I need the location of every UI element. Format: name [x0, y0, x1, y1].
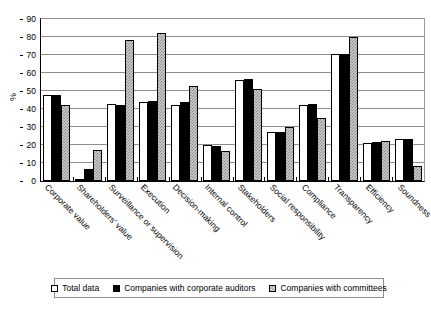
- bar-9-series-3[interactable]: [317, 118, 326, 181]
- y-tick-mark: [20, 19, 23, 20]
- legend-swatch-icon: [51, 285, 58, 292]
- bar-group: [201, 19, 233, 181]
- bar-10-series-1[interactable]: [331, 54, 340, 181]
- bar-4-series-3[interactable]: [157, 33, 166, 181]
- y-tick-mark: [20, 127, 23, 128]
- bar-group: [105, 19, 137, 181]
- bar-chart: % 0102030405060708090 Corporate valueSha…: [0, 0, 431, 314]
- y-tick-mark: [20, 163, 23, 164]
- bar-6-series-3[interactable]: [221, 151, 230, 181]
- y-tick-mark: [20, 37, 23, 38]
- bar-8-series-2[interactable]: [276, 132, 285, 181]
- bar-12-series-3[interactable]: [413, 166, 422, 181]
- bar-8-series-1[interactable]: [267, 132, 276, 181]
- bar-1-series-1[interactable]: [43, 95, 52, 181]
- x-axis-label: Shareholders' value: [75, 182, 135, 242]
- chart-legend: Total dataCompanies with corporate audit…: [54, 278, 384, 298]
- bar-group: [73, 19, 105, 181]
- bar-4-series-2[interactable]: [148, 101, 157, 181]
- bar-5-series-3[interactable]: [189, 86, 198, 181]
- x-axis-labels: Corporate valueShareholders' valueSurvei…: [40, 182, 425, 262]
- y-tick-mark: [20, 91, 23, 92]
- bar-2-series-1[interactable]: [75, 179, 84, 181]
- bar-3-series-2[interactable]: [116, 105, 125, 181]
- bar-group: [169, 19, 201, 181]
- bar-6-series-1[interactable]: [203, 145, 212, 181]
- bar-group: [264, 19, 296, 181]
- bar-group: [41, 19, 73, 181]
- y-tick-mark: [20, 109, 23, 110]
- bar-groups: [41, 19, 424, 181]
- bar-12-series-2[interactable]: [404, 139, 413, 181]
- bar-group: [392, 19, 424, 181]
- bar-4-series-1[interactable]: [139, 102, 148, 181]
- x-axis-label: Soundness: [396, 182, 431, 219]
- bar-group: [360, 19, 392, 181]
- legend-swatch-icon: [113, 285, 120, 292]
- y-tick-mark: [20, 145, 23, 146]
- bar-1-series-3[interactable]: [61, 105, 70, 181]
- y-tick-mark: [20, 73, 23, 74]
- bar-10-series-2[interactable]: [340, 54, 349, 181]
- legend-label: Total data: [62, 283, 99, 293]
- legend-item[interactable]: Companies with corporate auditors: [113, 283, 255, 293]
- bar-2-series-3[interactable]: [93, 150, 102, 182]
- bar-3-series-1[interactable]: [107, 104, 116, 181]
- x-axis-label: Execution: [139, 182, 172, 215]
- bar-3-series-3[interactable]: [125, 40, 134, 181]
- legend-label: Companies with corporate auditors: [124, 283, 255, 293]
- bar-11-series-1[interactable]: [363, 143, 372, 181]
- y-axis-title: %: [8, 86, 18, 108]
- bar-11-series-2[interactable]: [372, 142, 381, 181]
- bar-9-series-1[interactable]: [299, 105, 308, 181]
- y-tick-mark: [20, 181, 23, 182]
- bar-7-series-3[interactable]: [253, 89, 262, 181]
- bar-6-series-2[interactable]: [212, 146, 221, 181]
- bar-2-series-2[interactable]: [84, 169, 93, 181]
- bar-8-series-3[interactable]: [285, 127, 294, 181]
- legend-label: Companies with committees: [280, 283, 386, 293]
- bar-7-series-2[interactable]: [244, 79, 253, 181]
- legend-item[interactable]: Companies with committees: [269, 283, 386, 293]
- bar-5-series-1[interactable]: [171, 105, 180, 181]
- bar-1-series-2[interactable]: [52, 95, 61, 181]
- bar-group: [233, 19, 265, 181]
- bar-group: [328, 19, 360, 181]
- bar-group: [137, 19, 169, 181]
- bar-10-series-3[interactable]: [349, 37, 358, 181]
- x-axis-label: Efficiency: [364, 182, 397, 215]
- bar-12-series-1[interactable]: [395, 139, 404, 181]
- bar-5-series-2[interactable]: [180, 102, 189, 181]
- bar-11-series-3[interactable]: [381, 141, 390, 182]
- x-axis-label: Social responsibility: [268, 182, 328, 242]
- bar-9-series-2[interactable]: [308, 104, 317, 181]
- bar-group: [296, 19, 328, 181]
- legend-swatch-icon: [269, 285, 276, 292]
- plot-area: [40, 18, 425, 182]
- bar-7-series-1[interactable]: [235, 80, 244, 181]
- legend-item[interactable]: Total data: [51, 283, 99, 293]
- y-tick-mark: [20, 55, 23, 56]
